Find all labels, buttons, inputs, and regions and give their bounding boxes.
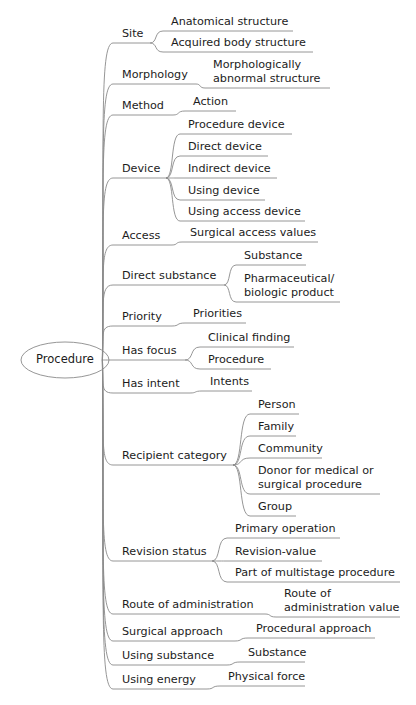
branch-node-label: Has focus xyxy=(122,344,177,358)
branch-node-label: Surgical approach xyxy=(122,625,223,639)
leaf-node-label: Donor for medical or surgical procedure xyxy=(258,464,374,492)
leaf-node-label: Revision-value xyxy=(235,545,316,559)
branch-node-label: Access xyxy=(122,229,160,243)
leaf-node-label: Family xyxy=(258,420,294,434)
branch-node-label: Priority xyxy=(122,310,162,324)
branch-connector xyxy=(102,360,207,689)
branch-node-label: Morphology xyxy=(122,68,188,82)
leaf-node-label: Acquired body structure xyxy=(171,36,306,50)
branch-node-label: Direct substance xyxy=(122,269,216,283)
leaf-connector xyxy=(227,662,305,665)
branch-node-label: Using energy xyxy=(122,673,196,687)
leaf-node-label: Group xyxy=(258,500,292,514)
leaf-connector xyxy=(172,323,246,326)
leaf-node-label: Physical force xyxy=(228,670,305,684)
leaf-node-label: Indirect device xyxy=(188,162,271,176)
root-node-label: Procedure xyxy=(21,352,109,366)
leaf-connector xyxy=(190,391,252,393)
leaf-node-label: Part of multistage procedure xyxy=(235,566,395,580)
leaf-node-label: Intents xyxy=(210,375,249,389)
mind-map-diagram: Procedure SiteAnatomical structureAcquir… xyxy=(0,0,416,705)
leaf-node-label: Anatomical structure xyxy=(171,15,288,29)
leaf-node-label: Substance xyxy=(248,646,307,660)
leaf-node-label: Pharmaceutical/ biologic product xyxy=(244,272,334,300)
leaf-node-label: Surgical access values xyxy=(190,226,316,240)
leaf-connector xyxy=(172,242,318,245)
leaf-connector xyxy=(173,111,236,115)
branch-node-label: Has intent xyxy=(122,377,180,391)
branch-node-label: Route of administration xyxy=(122,598,254,612)
branch-node-label: Revision status xyxy=(122,545,207,559)
leaf-node-label: Primary operation xyxy=(235,522,336,536)
leaf-node-label: Route of administration value xyxy=(284,587,399,615)
branch-node-label: Method xyxy=(122,99,164,113)
leaf-node-label: Procedure device xyxy=(188,118,285,132)
leaf-node-label: Using access device xyxy=(188,205,301,219)
branch-node-label: Recipient category xyxy=(122,449,227,463)
branch-node-label: Site xyxy=(122,27,143,41)
leaf-node-label: Using device xyxy=(188,184,260,198)
leaf-connector xyxy=(235,638,375,641)
leaf-node-label: Clinical finding xyxy=(208,331,290,345)
branch-connector xyxy=(102,245,172,360)
leaf-node-label: Morphologically abnormal structure xyxy=(213,58,320,86)
leaf-node-label: Procedural approach xyxy=(256,622,371,636)
leaf-node-label: Substance xyxy=(244,249,303,263)
leaf-node-label: Community xyxy=(258,442,323,456)
leaf-node-label: Action xyxy=(193,95,228,109)
branch-connector xyxy=(102,360,227,665)
leaf-connector xyxy=(207,686,305,689)
leaf-node-label: Direct device xyxy=(188,140,262,154)
leaf-node-label: Procedure xyxy=(208,353,264,367)
leaf-node-label: Priorities xyxy=(193,307,242,321)
branch-node-label: Using substance xyxy=(122,649,214,663)
leaf-node-label: Person xyxy=(258,398,296,412)
branch-node-label: Device xyxy=(122,162,160,176)
